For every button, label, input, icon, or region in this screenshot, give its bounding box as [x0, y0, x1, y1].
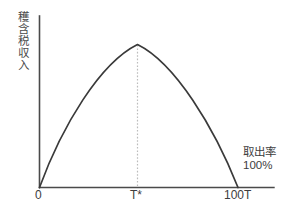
x-axis-label-percent: 100%: [243, 159, 276, 172]
x-tick-label-origin: 0: [35, 189, 42, 203]
x-tick-label-max: 100T: [224, 189, 251, 203]
x-axis-label-primary: 取出率: [243, 146, 276, 159]
chart-plot-area: [0, 0, 299, 221]
laffer-curve-path: [40, 45, 239, 188]
x-tick-label-optimal: T*: [130, 189, 142, 203]
y-axis-label: 穫含税収入: [10, 11, 28, 71]
laffer-curve-chart: 穫含税収入 取出率 100% 0 T* 100T: [0, 0, 299, 221]
x-axis-label: 取出率 100%: [243, 146, 276, 172]
